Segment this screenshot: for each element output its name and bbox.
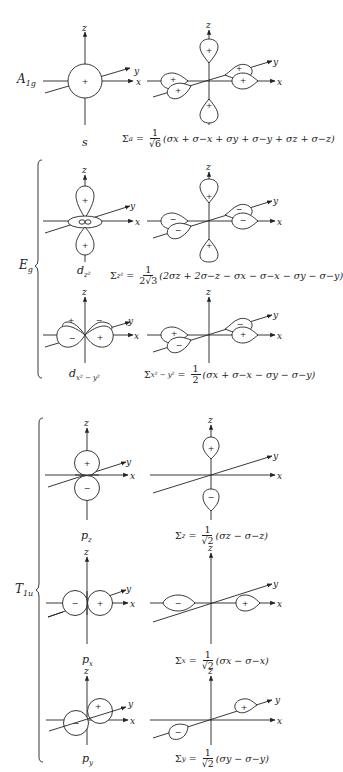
equals-sign: = [189,753,197,764]
svg-text:x: x [277,77,282,87]
svg-text:y: y [125,457,132,467]
irrep-main: A [17,72,26,86]
sigma-symbol: Σ [175,530,182,541]
svg-text:y: y [272,451,279,461]
denominator: √2 [201,536,213,546]
formula-rhs: (σy − σ−y) [216,753,269,764]
svg-text:+: + [97,333,104,342]
svg-text:+: + [97,599,104,608]
svg-text:+: + [95,702,102,711]
fraction: 1√2 [201,525,213,547]
sigma-symbol: Σ [110,270,117,281]
svg-text:y: y [272,196,279,206]
sigma-sub: x [182,657,186,665]
svg-text:−: − [69,334,76,343]
fraction: 12 [191,364,201,386]
svg-text:+: + [240,330,247,339]
a1g-s-orbital-diagram: + [43,32,133,125]
svg-text:z: z [81,23,87,33]
sigma-sub: y [182,755,186,763]
svg-text:x: x [135,217,140,227]
formula-sigma-x: Σx = 1√2 (σx − σ−x) [175,650,269,672]
formula-sigma-y: Σy = 1√2 (σy − σ−y) [175,748,269,770]
svg-text:z: z [205,287,211,297]
t1u-py-orbital-diagram: − + [46,676,128,745]
svg-text:+: + [206,192,213,201]
t1u-brace [36,418,43,762]
svg-text:−: − [240,216,247,225]
svg-text:z: z [83,547,89,557]
equals-sign: = [178,369,186,380]
sigma-sub: x² − y² [151,371,175,379]
orbital-label-dz2: dz² [77,265,91,279]
svg-text:+: + [240,76,247,85]
svg-text:−: − [175,728,182,737]
svg-text:+: + [82,241,89,250]
svg-text:x: x [130,716,135,726]
irrep-sub: 1u [23,589,33,598]
t1u-pz-orbital-diagram: + − [45,428,128,520]
svg-text:y: y [272,57,279,67]
svg-text:y: y [125,584,132,594]
svg-text:+: + [206,241,213,250]
svg-text:z: z [81,165,87,175]
eg-dz2-orbital-diagram: + + [43,175,133,262]
svg-text:−: − [175,599,182,608]
denominator: √2 [202,661,214,671]
denominator: 2√3 [139,276,157,286]
svg-text:y: y [129,201,136,211]
orbital-main: s [82,136,88,149]
svg-text:+: + [206,101,213,110]
svg-text:x: x [134,331,139,341]
a1g-salc-diagram: + + + + + + [147,30,275,125]
svg-text:z: z [205,162,211,172]
t1u-px-salc-diagram: − + [150,553,275,644]
orbital-label-py: py [82,753,93,767]
sigma-symbol: Σ [175,655,182,666]
svg-text:−: − [176,341,183,350]
svg-text:+: + [206,46,213,55]
formula-sigma-z2: Σz² = 12√3 (2σz + 2σ−z − σx − σ−x − σy −… [110,265,343,287]
orbital-sub: y [89,759,93,767]
denominator: 2 [193,375,199,385]
sigma-symbol: Σ [144,369,151,380]
irrep-main: T [15,582,23,596]
svg-text:+: + [242,599,249,608]
svg-text:x: x [277,599,282,609]
fraction: 1√2 [202,650,214,672]
svg-text:z: z [83,418,89,428]
irrep-main: E [19,258,28,272]
svg-text:−: − [73,719,80,728]
formula-rhs: (2σz + 2σ−z − σx − σ−x − σy − σ−y) [159,270,343,281]
orbital-main: p [81,529,88,542]
eg-brace [35,160,42,378]
svg-text:y: y [274,695,281,705]
sigma-symbol: Σ [122,133,129,144]
orbital-main: d [77,264,84,277]
svg-text:+: + [208,444,215,453]
irrep-label-eg: Eg [19,258,33,274]
svg-text:+: + [241,703,248,712]
svg-text:x: x [277,217,282,227]
equals-sign: = [189,655,197,666]
svg-text:x: x [277,471,282,481]
irrep-label-t1u: T1u [15,582,33,598]
formula-rhs: (σz − σ−z) [216,530,268,541]
svg-text:+: + [171,329,178,338]
formula-sigma-x2y2: Σx² − y² = 12 (σx + σ−x − σy − σ−y) [144,364,315,386]
fraction: 12√3 [139,265,157,287]
sigma-symbol: Σ [175,753,182,764]
fraction: 1√6 [149,128,161,150]
svg-text:x: x [277,716,282,726]
formula-rhs: (σx − σ−x) [216,655,269,666]
orbital-sub: x [89,660,93,668]
svg-text:y: y [127,316,134,326]
svg-text:−: − [208,493,215,502]
irrep-label-a1g: A1g [17,72,36,88]
sigma-sub: a [129,135,133,143]
sign-plus: + [82,77,89,86]
svg-text:x: x [136,77,141,87]
sigma-sub: z [182,532,186,540]
formula-sigma-z: Σz = 1√2 (σz − σ−z) [175,525,268,547]
